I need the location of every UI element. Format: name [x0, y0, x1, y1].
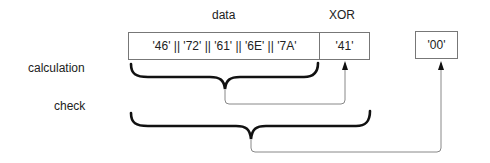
calculation-brace: [131, 63, 318, 89]
diagram-connectors: [0, 0, 490, 163]
check-brace: [131, 111, 370, 139]
xor-arrowhead-icon: [342, 61, 348, 70]
check-arrowhead-icon: [438, 61, 444, 70]
calculation-connector-arrow: [225, 63, 345, 104]
